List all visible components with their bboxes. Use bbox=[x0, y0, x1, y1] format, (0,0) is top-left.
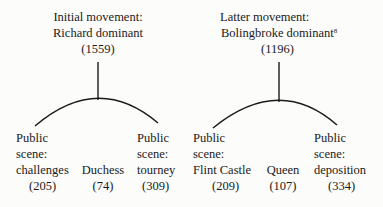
right-branch-arc bbox=[213, 100, 337, 128]
left-child-duchess: Duchess (74) bbox=[80, 162, 126, 194]
child-count: (107) bbox=[263, 178, 303, 194]
left-child-tourney: Public scene: tourney (309) bbox=[137, 130, 175, 194]
footnote-marker: 8 bbox=[334, 27, 338, 35]
right-child-queen: Queen (107) bbox=[263, 162, 303, 194]
child-label: tourney bbox=[137, 162, 175, 178]
right-root-node: Latter movement: Bolingbroke dominant8 (… bbox=[219, 9, 369, 57]
child-label: Public bbox=[314, 130, 366, 146]
child-label: scene: bbox=[314, 146, 366, 162]
child-label: Public bbox=[16, 130, 69, 146]
child-count: (74) bbox=[80, 178, 126, 194]
left-child-challenges: Public scene: challenges (205) bbox=[16, 130, 69, 194]
child-count: (209) bbox=[193, 178, 251, 194]
right-root-subtitle: Bolingbroke dominant bbox=[221, 26, 334, 40]
child-count: (334) bbox=[314, 178, 366, 194]
left-root-subtitle: Richard dominant bbox=[38, 25, 158, 41]
right-root-title: Latter movement: bbox=[219, 9, 369, 25]
child-label: challenges bbox=[16, 162, 69, 178]
child-label: Flint Castle bbox=[193, 162, 251, 178]
child-label: Duchess bbox=[80, 162, 126, 178]
left-root-title: Initial movement: bbox=[38, 9, 158, 25]
right-child-deposition: Public scene: deposition (334) bbox=[314, 130, 366, 194]
child-label: deposition bbox=[314, 162, 366, 178]
right-child-flint-castle: Public scene: Flint Castle (209) bbox=[193, 130, 251, 194]
child-count: (205) bbox=[16, 178, 69, 194]
child-count: (309) bbox=[137, 178, 175, 194]
child-label: Queen bbox=[263, 162, 303, 178]
child-label: Public bbox=[193, 130, 251, 146]
child-label: scene: bbox=[137, 146, 175, 162]
left-root-node: Initial movement: Richard dominant (1559… bbox=[38, 9, 158, 57]
child-label: Public bbox=[137, 130, 175, 146]
left-branch-arc bbox=[35, 98, 158, 126]
child-label: scene: bbox=[193, 146, 251, 162]
child-label: scene: bbox=[16, 146, 69, 162]
right-root-count: (1196) bbox=[219, 41, 369, 57]
left-root-count: (1559) bbox=[38, 41, 158, 57]
